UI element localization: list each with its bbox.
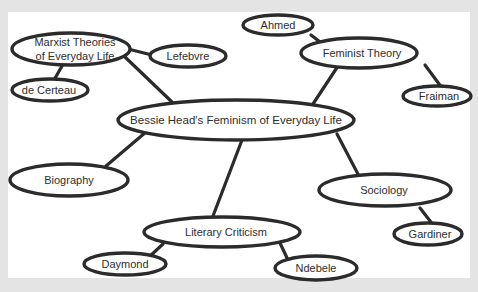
node-ahmed[interactable]: Ahmed [243, 15, 313, 35]
node-literary-criticism[interactable]: Literary Criticism [144, 217, 300, 247]
node-center-label: Bessie Head's Feminism of Everyday Life [130, 114, 342, 126]
edge-center-literary [213, 140, 242, 216]
node-sociology[interactable]: Sociology [319, 174, 451, 206]
node-de-certeau[interactable]: de Certeau [12, 79, 88, 101]
node-ndebele-label: Ndebele [296, 262, 337, 274]
node-feminist-theory[interactable]: Feminist Theory [301, 38, 417, 68]
node-biography-label: Biography [44, 174, 94, 186]
node-de-certeau-label: de Certeau [22, 84, 76, 96]
edge-center-biography [106, 132, 146, 166]
node-biography[interactable]: Biography [10, 164, 128, 196]
node-fraiman[interactable]: Fraiman [403, 86, 471, 106]
node-ndebele[interactable]: Ndebele [275, 256, 357, 280]
node-daymond[interactable]: Daymond [84, 253, 166, 275]
figure: Bessie Head's Feminism of Everyday Life … [0, 0, 478, 292]
edge-center-sociology [337, 134, 359, 176]
node-ahmed-label: Ahmed [261, 19, 296, 31]
node-sociology-label: Sociology [360, 184, 408, 196]
node-marxist-label-line2: of Everyday Life [36, 50, 115, 62]
mind-map-diagram: Bessie Head's Feminism of Everyday Life … [0, 0, 478, 292]
node-fraiman-label: Fraiman [419, 90, 459, 102]
node-gardiner[interactable]: Gardiner [394, 223, 462, 245]
edge-literary-ndebele [280, 243, 288, 260]
node-lefebvre-label: Lefebvre [167, 50, 210, 62]
node-gardiner-label: Gardiner [409, 228, 452, 240]
node-literary-label: Literary Criticism [185, 226, 267, 238]
node-lefebvre[interactable]: Lefebvre [150, 45, 226, 67]
node-feminist-label: Feminist Theory [323, 47, 402, 59]
node-center[interactable]: Bessie Head's Feminism of Everyday Life [118, 100, 354, 140]
edge-center-feminist [313, 66, 338, 104]
node-marxist-theories[interactable]: Marxist Theories of Everyday Life [12, 33, 130, 65]
node-marxist-label-line1: Marxist Theories [34, 36, 116, 48]
node-daymond-label: Daymond [101, 258, 148, 270]
